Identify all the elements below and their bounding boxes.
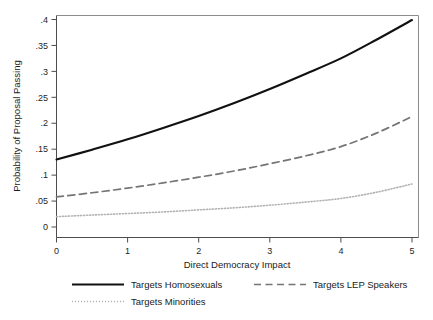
y-axis-title: Probability of Proposal Passing (11, 60, 22, 192)
y-tick-label: .3 (40, 67, 48, 77)
figure-container: 0.05.1.15.2.25.3.35.4 012345 Direct Demo… (0, 0, 433, 320)
x-tick-label: 3 (267, 246, 272, 256)
x-tick-label: 2 (196, 246, 201, 256)
y-tick-label: .1 (40, 170, 48, 180)
y-tick-label: .2 (40, 118, 48, 128)
legend-label-3: Targets Minorities (131, 296, 206, 307)
y-tick-label: .25 (35, 93, 48, 103)
y-tick-label: .35 (35, 41, 48, 51)
x-tick-label: 4 (338, 246, 343, 256)
data-series-group (57, 20, 413, 217)
series-line-1 (57, 20, 413, 160)
x-tick-label: 5 (409, 246, 414, 256)
y-tick-label: .05 (35, 196, 48, 206)
y-axis-ticks: 0.05.1.15.2.25.3.35.4 (35, 15, 56, 233)
series-line-2 (57, 117, 413, 197)
x-tick-label: 1 (125, 246, 130, 256)
y-tick-label: 0 (43, 222, 48, 232)
legend-label-2: Targets LEP Speakers (313, 279, 408, 290)
x-axis-title: Direct Democracy Impact (184, 259, 291, 270)
x-tick-label: 0 (54, 246, 59, 256)
plot-frame (57, 16, 419, 238)
legend-label-1: Targets Homosexuals (131, 279, 223, 290)
chart-canvas: 0.05.1.15.2.25.3.35.4 012345 Direct Demo… (0, 0, 433, 320)
y-tick-label: .15 (35, 144, 48, 154)
series-line-3 (57, 184, 413, 217)
x-axis-ticks: 012345 (54, 238, 415, 257)
y-tick-label: .4 (40, 15, 48, 25)
chart-legend: Targets HomosexualsTargets LEP SpeakersT… (72, 279, 408, 307)
